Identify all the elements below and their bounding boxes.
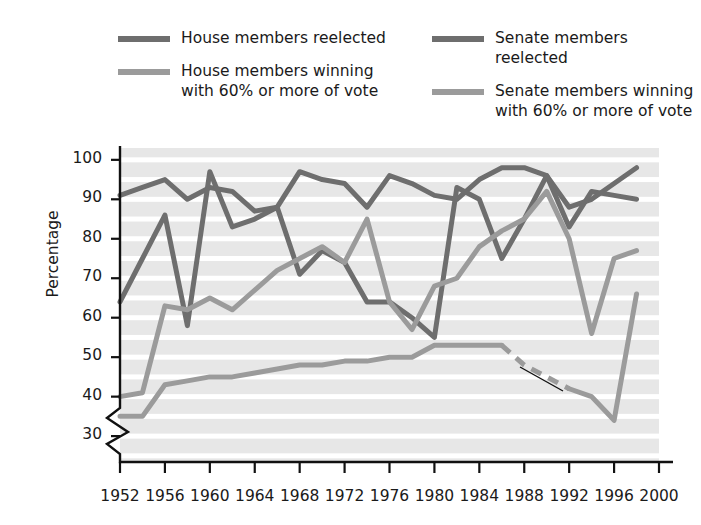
gridline [120, 197, 659, 202]
gridline [120, 335, 659, 340]
gridline [120, 256, 659, 261]
gridline [120, 157, 659, 162]
gridline [120, 315, 659, 320]
chart-figure: House members reelected House members wi… [0, 0, 701, 525]
gridline [120, 394, 659, 399]
gridline [120, 414, 659, 419]
gridline [120, 434, 659, 439]
chart-plot-area [0, 0, 701, 525]
